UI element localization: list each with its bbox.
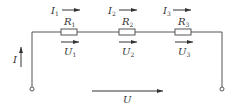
circuit-wires: [32, 32, 222, 87]
r1-label: R1: [63, 16, 75, 28]
right-terminal: [220, 87, 224, 91]
r2-label: R2: [121, 16, 134, 28]
resistor-r2: [119, 29, 135, 35]
u2-label: U2: [122, 46, 134, 58]
u1-label: U1: [64, 46, 76, 58]
i3-label: I3: [162, 5, 171, 17]
left-terminal: [30, 87, 34, 91]
resistor-r3: [175, 29, 191, 35]
resistor-r1: [61, 29, 77, 35]
i1-label: I1: [50, 5, 59, 17]
series-circuit-diagram: R1 R2 R3 I1 I2 I3 U1 U2 U3 I U: [0, 0, 247, 111]
r3-label: R3: [177, 16, 190, 28]
i2-label: I2: [107, 5, 116, 17]
total-voltage-label: U: [123, 94, 132, 105]
u3-label: U3: [178, 46, 190, 58]
total-current-label: I: [12, 54, 18, 65]
